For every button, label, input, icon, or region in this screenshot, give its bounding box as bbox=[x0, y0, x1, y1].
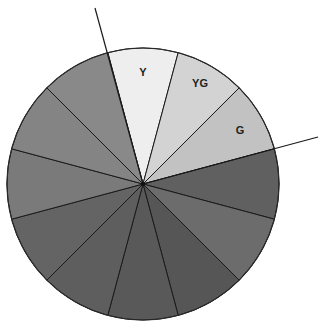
center-point bbox=[141, 182, 145, 186]
color-wheel bbox=[0, 0, 330, 329]
sector-label-y: Y bbox=[139, 66, 146, 78]
sector-label-yg: YG bbox=[192, 77, 208, 89]
sector-label-g: G bbox=[236, 124, 245, 136]
